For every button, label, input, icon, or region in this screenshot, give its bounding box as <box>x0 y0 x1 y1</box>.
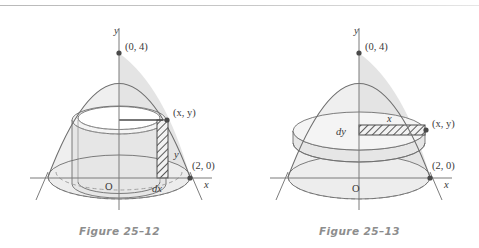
figure-25-12: y x (0, 4) (x, y) (2, 0) O y dx Figure 2… <box>0 12 239 248</box>
figure-25-12-caption: Figure 25–12 <box>0 225 239 237</box>
point-curve-left <box>164 117 169 122</box>
point-label-vertex-right: (0, 4) <box>365 41 388 53</box>
strip-thickness-label-left: dx <box>152 183 162 194</box>
point-curve-right <box>423 127 428 132</box>
page-top-rule <box>0 5 479 6</box>
point-vertex-left <box>116 50 121 55</box>
point-vertex-right <box>356 50 361 55</box>
point-label-x-intercept-right: (2, 0) <box>432 160 455 172</box>
point-label-curve-left: (x, y) <box>173 107 196 119</box>
disk-radius-label-right: x <box>386 113 392 124</box>
figure-25-13-caption: Figure 25–13 <box>240 225 479 237</box>
figure-25-13: y x (0, 4) (x, y) (2, 0) O x dy Figure 2… <box>240 12 479 248</box>
origin-label-left: O <box>105 181 113 192</box>
figure-25-12-graphic: y x (0, 4) (x, y) (2, 0) O y dx <box>0 12 239 222</box>
point-label-curve-right: (x, y) <box>432 118 455 130</box>
x-axis-label-left: x <box>203 179 209 190</box>
page-canvas: y x (0, 4) (x, y) (2, 0) O y dx Figure 2… <box>0 0 479 248</box>
x-axis-label-right: x <box>443 179 449 190</box>
point-x-intercept-left <box>187 175 192 180</box>
disk-thickness-label-right: dy <box>336 126 346 137</box>
figure-25-13-graphic: y x (0, 4) (x, y) (2, 0) O x dy <box>240 12 479 222</box>
origin-label-right: O <box>352 183 360 194</box>
y-axis-label-left: y <box>113 25 119 36</box>
point-label-x-intercept-left: (2, 0) <box>192 160 215 172</box>
point-x-intercept-right <box>427 175 432 180</box>
y-axis-label-right: y <box>353 25 359 36</box>
strip-height-label-left: y <box>173 149 179 160</box>
point-label-vertex-left: (0, 4) <box>125 41 148 53</box>
